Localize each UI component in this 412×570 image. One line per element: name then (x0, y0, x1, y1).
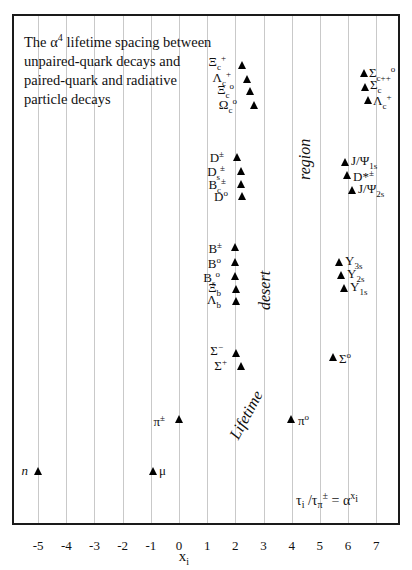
point-label: Λc+ (373, 91, 392, 113)
triangle-marker-icon (231, 272, 239, 280)
triangle-marker-icon (246, 87, 254, 95)
point-label: Ωco (219, 95, 237, 117)
triangle-marker-icon (34, 467, 42, 475)
triangle-marker-icon (231, 243, 239, 251)
point-label: Σ− (210, 341, 223, 357)
triangle-marker-icon (243, 75, 251, 83)
triangle-marker-icon (250, 101, 258, 109)
x-tick-label: 1 (204, 538, 211, 554)
triangle-marker-icon (232, 285, 240, 293)
region-label-desert: desert (256, 271, 274, 310)
triangle-marker-icon (175, 415, 183, 423)
triangle-marker-icon (335, 258, 343, 266)
triangle-marker-icon (341, 158, 349, 166)
triangle-marker-icon (337, 271, 345, 279)
triangle-marker-icon (360, 69, 368, 77)
triangle-marker-icon (361, 83, 369, 91)
point-label: Do (214, 187, 228, 203)
triangle-marker-icon (233, 153, 241, 161)
point-label: πo (298, 411, 309, 427)
triangle-marker-icon (287, 415, 295, 423)
gridline (320, 16, 321, 523)
formula-annotation: τi /τπ± = αxi (296, 490, 358, 510)
triangle-marker-icon (232, 349, 240, 357)
x-tick-label: 5 (317, 538, 324, 554)
point-label: π± (153, 412, 165, 428)
gridline (235, 16, 236, 523)
x-tick-label: -1 (145, 538, 156, 554)
triangle-marker-icon (237, 180, 245, 188)
x-tick-label: 2 (232, 538, 239, 554)
x-tick-label: 7 (373, 538, 380, 554)
triangle-marker-icon (232, 297, 240, 305)
point-label: Υ1s (350, 280, 367, 299)
chart-title: The α4 lifetime spacing between unpaired… (24, 28, 234, 109)
triangle-marker-icon (364, 96, 372, 104)
gridline (264, 16, 265, 523)
triangle-marker-icon (238, 61, 246, 69)
x-tick-label: -5 (33, 538, 44, 554)
point-label: Σ+ (214, 356, 227, 372)
triangle-marker-icon (149, 467, 157, 475)
region-label-region: region (296, 139, 314, 180)
point-label: Σo (339, 349, 351, 365)
point-label: Λb (207, 293, 221, 312)
triangle-marker-icon (237, 362, 245, 370)
x-tick-label: -2 (117, 538, 128, 554)
point-label: μ (159, 464, 166, 477)
point-label: J/Ψ2s (358, 182, 384, 201)
x-tick-label: 3 (260, 538, 267, 554)
lifetime-spacing-chart: -5-4-3-2-101234567 xi The α4 lifetime sp… (0, 0, 412, 570)
triangle-marker-icon (348, 186, 356, 194)
x-tick-label: -4 (61, 538, 72, 554)
triangle-marker-icon (238, 192, 246, 200)
point-label: B± (208, 239, 222, 255)
triangle-marker-icon (343, 171, 351, 179)
triangle-marker-icon (340, 284, 348, 292)
x-tick-label: 6 (345, 538, 352, 554)
triangle-marker-icon (231, 258, 239, 266)
x-axis-label: xi (179, 548, 189, 567)
x-tick-label: 4 (288, 538, 295, 554)
x-tick-label: -3 (89, 538, 100, 554)
triangle-marker-icon (237, 167, 245, 175)
point-label: n (22, 464, 29, 477)
triangle-marker-icon (329, 353, 337, 361)
gridline (292, 16, 293, 523)
